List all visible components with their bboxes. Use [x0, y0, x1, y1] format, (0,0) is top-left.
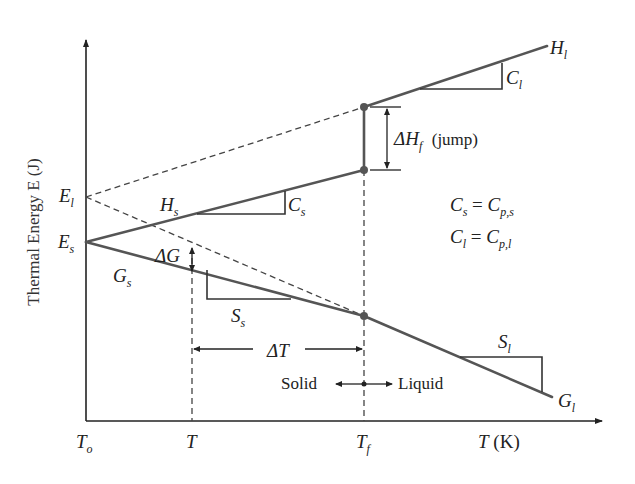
label-g-l: Gl [558, 391, 575, 410]
tick-t-f: Tf [356, 432, 370, 451]
thermal-energy-diagram: Thermal Energy E (J) El Es To T Tf T (K)… [0, 0, 635, 484]
y-axis-label: Thermal Energy E (J) [24, 158, 44, 305]
tick-t: T [186, 432, 197, 451]
liquid-enthalpy-extrapolation [86, 107, 364, 197]
label-delta-t: ΔT [267, 341, 289, 360]
label-solid: Solid [281, 375, 317, 392]
tick-e-l: El [59, 186, 74, 205]
label-g-s: Gs [113, 266, 131, 285]
label-liquid: Liquid [398, 375, 443, 392]
label-delta-g: ΔG [155, 246, 180, 265]
curves [86, 46, 552, 397]
liquid-gibbs-extrapolation [86, 197, 364, 316]
label-c-s: Cs [288, 195, 305, 214]
label-delta-hf: ΔHf (jump) [394, 129, 478, 148]
label-c-l: Cl [506, 68, 522, 87]
equation-c-s: Cs = Cp,s [450, 195, 514, 214]
h-s-curve [86, 170, 364, 242]
point-g-intersection [360, 312, 368, 320]
label-s-s: Ss [231, 306, 245, 325]
point-h-l-start [360, 103, 368, 111]
equation-c-l: Cl = Cp,l [450, 227, 511, 246]
tick-e-s: Es [58, 232, 74, 251]
label-h-l: Hl [550, 38, 567, 57]
point-h-s-end [360, 166, 368, 174]
label-h-s: Hs [160, 195, 178, 214]
diagram-canvas [0, 0, 635, 484]
label-s-l: Sl [498, 332, 511, 351]
dashed-extrapolations [86, 107, 364, 421]
x-axis-label: T (K) [478, 432, 520, 451]
phase-boundary-marker [336, 382, 392, 387]
tick-t-o: To [76, 432, 93, 451]
